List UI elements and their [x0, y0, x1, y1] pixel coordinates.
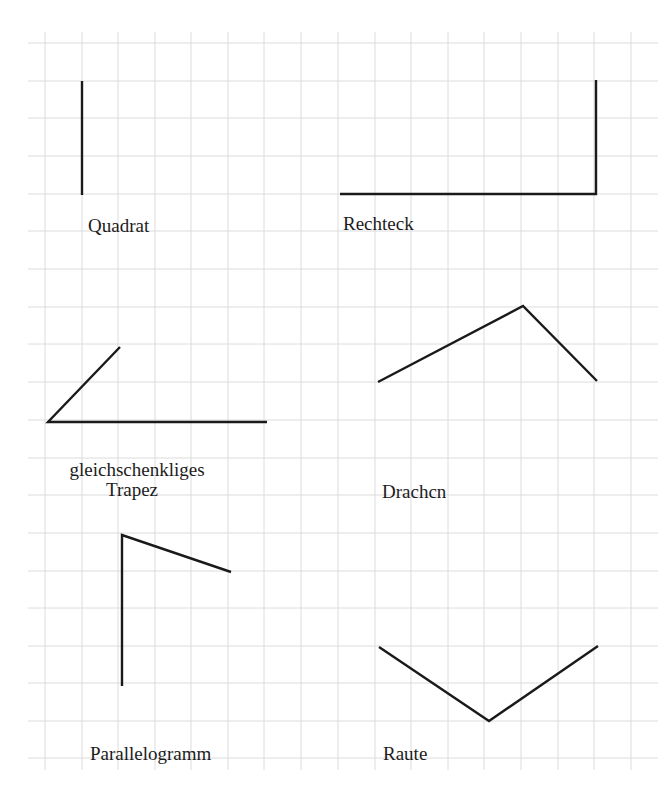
grid-diagram [0, 0, 658, 798]
label-rechteck: Rechteck [343, 214, 414, 234]
label-parallelogramm: Parallelogramm [90, 744, 211, 764]
figure-strokes [48, 80, 598, 721]
figure-parallelogramm [122, 535, 231, 686]
label-drachen: Drachcn [382, 482, 446, 502]
label-trapez: gleichschenkliges Trapez [52, 460, 222, 500]
label-raute: Raute [383, 744, 427, 764]
label-trapez-line2: Trapez [42, 480, 222, 500]
label-quadrat: Quadrat [88, 216, 149, 236]
label-trapez-line1: gleichschenkliges [52, 460, 222, 480]
figure-gleichschenkliges-trapez [48, 347, 267, 422]
